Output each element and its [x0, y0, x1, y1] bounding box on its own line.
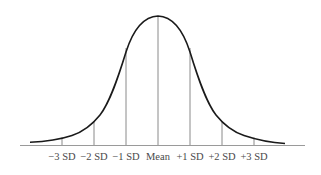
label-minus-3sd: −3 SD [48, 151, 76, 162]
label-minus-2sd: −2 SD [80, 151, 108, 162]
label-minus-1sd: −1 SD [112, 151, 140, 162]
normal-distribution-diagram: −3 SD −2 SD −1 SD Mean +1 SD +2 SD +3 SD [0, 0, 321, 175]
label-plus-1sd: +1 SD [176, 151, 204, 162]
label-mean: Mean [146, 151, 171, 162]
label-plus-2sd: +2 SD [208, 151, 236, 162]
label-plus-3sd: +3 SD [240, 151, 268, 162]
